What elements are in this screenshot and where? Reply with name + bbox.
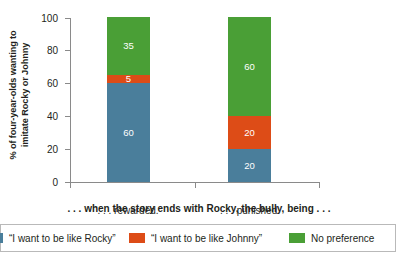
y-tick-20: 20 bbox=[65, 149, 70, 150]
bar-punished: 60 20 20 bbox=[228, 17, 271, 182]
y-tick-label-60: 60 bbox=[47, 78, 58, 89]
bar-rewarded-value-rocky: 60 bbox=[123, 128, 134, 138]
plot-area: 0 20 40 60 80 100 35 5 6 bbox=[70, 18, 320, 183]
bar-punished-value-no-preference: 60 bbox=[244, 62, 255, 72]
y-tick-label-0: 0 bbox=[52, 177, 58, 188]
y-tick-80: 80 bbox=[65, 50, 70, 51]
bar-punished-segment-rocky: 20 bbox=[228, 149, 271, 182]
legend-item-johnny: “I want to be like Johnny” bbox=[129, 225, 262, 251]
y-axis-title-line2: imitate Rocky or Johnny bbox=[19, 30, 31, 159]
bar-rewarded-value-no-preference: 35 bbox=[123, 41, 134, 51]
y-tick-60: 60 bbox=[65, 83, 70, 84]
y-axis-title: % of four-year-olds wanting to imitate R… bbox=[2, 0, 36, 190]
bar-punished-value-rocky: 20 bbox=[244, 161, 255, 171]
legend-item-no-preference: No preference bbox=[289, 225, 374, 251]
legend-label-no-preference: No preference bbox=[311, 233, 374, 244]
stacked-bar-chart-figure: % of four-year-olds wanting to imitate R… bbox=[0, 0, 398, 256]
y-tick-label-40: 40 bbox=[47, 111, 58, 122]
y-tick-100: 100 bbox=[65, 18, 70, 19]
bar-rewarded-segment-rocky: 60 bbox=[107, 83, 150, 182]
bar-punished-value-johnny: 20 bbox=[244, 128, 255, 138]
y-axis-line bbox=[70, 18, 71, 183]
legend-swatch-rocky-icon bbox=[0, 233, 3, 243]
bar-rewarded-segment-no-preference: 35 bbox=[107, 17, 150, 75]
bar-punished-segment-johnny: 20 bbox=[228, 116, 271, 149]
bar-punished-segment-no-preference: 60 bbox=[228, 17, 271, 116]
legend-label-rocky: “I want to be like Rocky” bbox=[9, 233, 116, 244]
y-tick-40: 40 bbox=[65, 116, 70, 117]
legend-label-johnny: “I want to be like Johnny” bbox=[151, 233, 262, 244]
x-tick-end bbox=[319, 183, 320, 188]
y-tick-label-100: 100 bbox=[41, 13, 58, 24]
y-axis-title-line1: % of four-year-olds wanting to bbox=[8, 30, 20, 159]
bar-rewarded-segment-johnny: 5 bbox=[107, 75, 150, 83]
legend-item-rocky: “I want to be like Rocky” bbox=[0, 225, 116, 251]
bar-rewarded: 35 5 60 bbox=[107, 17, 150, 182]
x-tick-mid bbox=[195, 183, 196, 188]
y-tick-label-20: 20 bbox=[47, 144, 58, 155]
x-axis-caption: . . . when the story ends with Rocky, th… bbox=[0, 203, 398, 214]
chart-legend: “I want to be like Rocky” “I want to be … bbox=[0, 224, 396, 252]
x-tick-start bbox=[70, 183, 71, 188]
legend-swatch-no-preference-icon bbox=[289, 233, 305, 243]
legend-swatch-johnny-icon bbox=[129, 233, 145, 243]
y-tick-label-80: 80 bbox=[47, 45, 58, 56]
